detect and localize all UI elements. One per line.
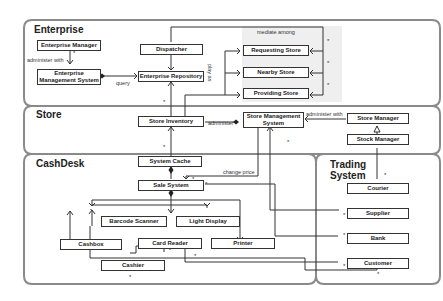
- class-cashier[interactable]: Cashier: [101, 260, 165, 271]
- enterprise-package: [24, 20, 440, 106]
- label-administer-with-store: administer with: [306, 111, 343, 117]
- multiplicity: *: [194, 253, 196, 259]
- class-supplier[interactable]: Supplier: [347, 208, 409, 219]
- multiplicity: *: [287, 139, 289, 145]
- label-query: query: [116, 80, 130, 86]
- multiplicity: *: [327, 60, 329, 66]
- class-stock-manager[interactable]: Stock Manager: [347, 134, 409, 145]
- class-store-manager[interactable]: Store Manager: [347, 113, 409, 124]
- multiplicity: *: [163, 99, 165, 105]
- multiplicity: *: [384, 172, 386, 178]
- package-title-store: Store: [36, 109, 62, 120]
- class-courier[interactable]: Courier: [347, 183, 409, 194]
- class-providing-store[interactable]: Providing Store: [243, 88, 309, 99]
- label-change-price: change price: [223, 169, 255, 175]
- class-enterprise-repository[interactable]: Enterprise Repository: [138, 71, 204, 82]
- class-store-inventory[interactable]: Store Inventory: [138, 116, 204, 127]
- class-nearby-store[interactable]: Nearby Store: [243, 67, 309, 78]
- multiplicity: *: [205, 181, 207, 187]
- multiplicity: *: [343, 212, 345, 218]
- label-play-as: play as: [207, 64, 213, 81]
- multiplicity: *: [129, 274, 131, 280]
- multiplicity: *: [377, 271, 379, 277]
- package-title-trading-system: Trading System: [330, 159, 390, 181]
- multiplicity: *: [163, 144, 165, 150]
- class-enterprise-manager[interactable]: Enterprise Manager: [37, 40, 101, 51]
- class-customer[interactable]: Customer: [347, 258, 409, 269]
- class-enterprise-management-system[interactable]: Enterprise Management System: [37, 69, 101, 85]
- class-bank[interactable]: Bank: [347, 233, 409, 244]
- label-administer: administer: [208, 120, 233, 126]
- class-printer[interactable]: Printer: [211, 238, 275, 249]
- multiplicity: *: [327, 38, 329, 44]
- multiplicity: *: [343, 263, 345, 269]
- cashdesk-package: [24, 154, 316, 284]
- class-cashbox[interactable]: Cashbox: [60, 239, 122, 250]
- class-system-cache[interactable]: System Cache: [138, 156, 202, 167]
- label-administer-with-enterprise: administer with: [27, 57, 64, 63]
- class-card-reader[interactable]: Card Reader: [138, 238, 202, 249]
- label-mediate-among: mediate among: [257, 29, 295, 35]
- multiplicity: *: [192, 176, 194, 182]
- package-title-cashdesk: CashDesk: [36, 158, 84, 169]
- class-barcode-scanner[interactable]: Barcode Scanner: [101, 216, 167, 227]
- class-light-display[interactable]: Light Display: [176, 216, 240, 227]
- class-dispatcher[interactable]: Dispatcher: [140, 44, 203, 55]
- multiplicity: *: [327, 82, 329, 88]
- multiplicity: *: [73, 50, 75, 56]
- class-store-management-system[interactable]: Store Management System: [243, 112, 304, 128]
- package-title-enterprise: Enterprise: [34, 24, 83, 35]
- multiplicity: *: [343, 232, 345, 238]
- class-requesting-store[interactable]: Requesting Store: [243, 45, 309, 56]
